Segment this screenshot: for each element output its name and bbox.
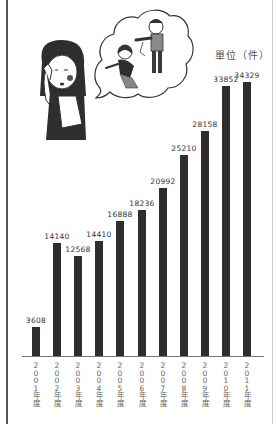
bar-2002年度	[53, 243, 61, 356]
bar-value-label: 25210	[164, 144, 204, 153]
x-tick-label: 2004年度	[93, 362, 105, 408]
x-tick-label: 2003年度	[72, 362, 84, 408]
bar-2001年度	[32, 327, 40, 356]
x-tick-label: 2007年度	[157, 362, 169, 408]
bar-value-label: 16888	[100, 210, 140, 219]
bar-value-label: 18236	[122, 199, 162, 208]
x-tick-label: 2009年度	[199, 362, 211, 408]
bar-value-label: 3608	[16, 316, 56, 325]
bar-2006年度	[138, 210, 146, 356]
bar-value-label: 28158	[185, 120, 225, 129]
bar-value-label: 34329	[227, 71, 267, 80]
bar-value-label: 12568	[58, 245, 98, 254]
x-tick-label: 2001年度	[30, 362, 42, 408]
bar-2004年度	[95, 241, 103, 356]
x-axis-baseline	[22, 356, 264, 357]
x-tick-label: 2005年度	[114, 362, 126, 408]
bar-2008年度	[180, 155, 188, 356]
bar-value-label: 14410	[79, 230, 119, 239]
x-tick-label: 2008年度	[178, 362, 190, 408]
bar-2005年度	[116, 221, 124, 356]
bar-2007年度	[159, 188, 167, 356]
x-tick-label: 2011年度	[241, 362, 253, 408]
x-tick-label: 2010年度	[220, 362, 232, 408]
bar-2009年度	[201, 131, 209, 356]
x-tick-label: 2006年度	[136, 362, 148, 408]
bar-2003年度	[74, 256, 82, 356]
bar-2011年度	[243, 82, 251, 356]
x-tick-label: 2002年度	[51, 362, 63, 408]
bar-2010年度	[222, 86, 230, 356]
bar-value-label: 14140	[37, 232, 77, 241]
bar-value-label: 20992	[143, 177, 183, 186]
bar-chart: 36082001年度141402002年度125682003年度14410200…	[0, 0, 276, 424]
